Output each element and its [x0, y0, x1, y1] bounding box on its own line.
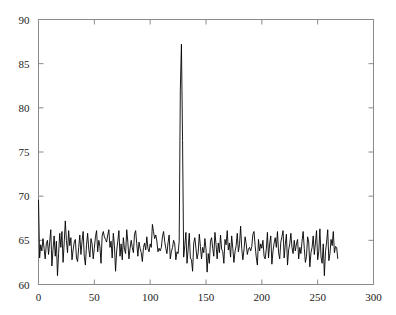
- x-tick-label: 0: [36, 291, 42, 303]
- y-tick-label: 75: [19, 146, 31, 158]
- x-tick-label: 100: [142, 291, 159, 303]
- y-tick-label: 60: [19, 279, 31, 291]
- y-tick-label: 90: [19, 14, 31, 26]
- x-tick-label: 200: [254, 291, 271, 303]
- y-tick-label: 70: [19, 190, 31, 202]
- y-tick-label: 65: [19, 234, 31, 246]
- x-tick-label: 150: [198, 291, 215, 303]
- signal-series-line: [39, 44, 338, 275]
- plot-area: 050100150200250300 60657075808590: [19, 14, 383, 303]
- x-tick-label: 50: [89, 291, 101, 303]
- x-tick-label: 250: [309, 291, 326, 303]
- y-axis-tick-labels: 60657075808590: [19, 14, 31, 291]
- x-tick-label: 300: [365, 291, 382, 303]
- x-axis-tick-labels: 050100150200250300: [36, 291, 383, 303]
- y-tick-label: 85: [19, 58, 31, 70]
- y-tick-label: 80: [19, 102, 31, 114]
- line-chart: 050100150200250300 60657075808590: [0, 0, 396, 315]
